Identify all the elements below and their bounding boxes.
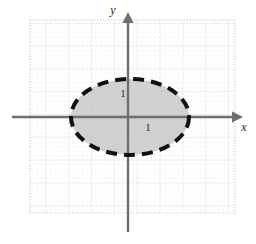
x-axis-label: x bbox=[240, 120, 247, 134]
y-intercept-label-1: 1 bbox=[120, 87, 126, 99]
coordinate-plane-figure: x y 1 1 bbox=[0, 0, 256, 244]
x-intercept-label-1: 1 bbox=[145, 121, 151, 133]
figure-root: x y 1 1 bbox=[0, 0, 256, 244]
y-axis-arrowhead bbox=[123, 12, 134, 23]
y-axis-label: y bbox=[109, 3, 116, 17]
